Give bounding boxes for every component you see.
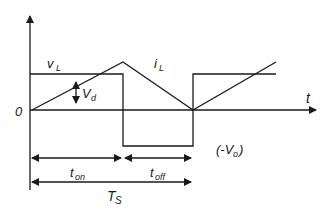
svg-text:L: L (159, 63, 164, 73)
svg-text:o: o (233, 149, 238, 159)
svg-text:L: L (56, 63, 61, 73)
neg-vo-label: (-V o ) (216, 142, 243, 159)
waveform-diagram: 0 t v L i L V d (-V o ) t on t off T S (0, 0, 328, 214)
svg-text:S: S (115, 195, 122, 206)
iL-label: i L (154, 56, 164, 73)
svg-text:d: d (91, 93, 97, 103)
svg-text:(-V: (-V (216, 142, 235, 157)
vd-label: V d (82, 86, 97, 103)
origin-label: 0 (15, 104, 23, 119)
toff-label: t off (150, 165, 167, 182)
svg-text:on: on (75, 172, 85, 182)
svg-text:i: i (154, 56, 158, 71)
ts-label: T S (107, 188, 122, 206)
svg-text:v: v (47, 56, 55, 71)
ton-label: t on (70, 165, 85, 182)
vL-label: v L (47, 56, 61, 73)
time-axis-label: t (306, 90, 311, 106)
svg-text:off: off (155, 172, 167, 182)
